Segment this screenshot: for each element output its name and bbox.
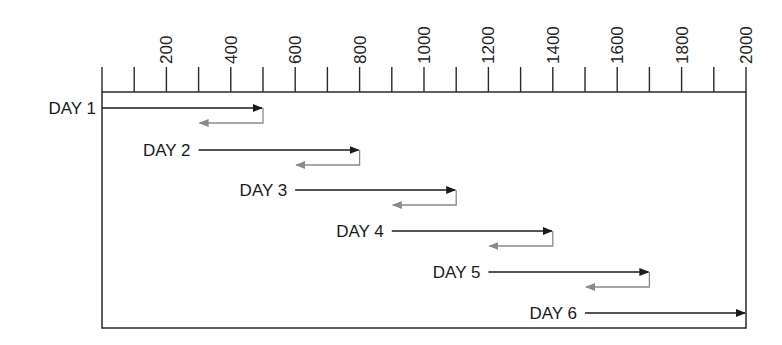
progress-timeline-diagram: 200400600800100012001400160018002000 DAY… (0, 0, 782, 345)
day-row-4: DAY 4 (336, 222, 553, 246)
return-arrow (200, 108, 263, 123)
day-row-6: DAY 6 (529, 304, 745, 323)
axis-tick-label: 400 (222, 36, 241, 64)
day-label: DAY 4 (336, 222, 384, 241)
day-label: DAY 6 (529, 304, 577, 323)
day-row-2: DAY 2 (143, 141, 360, 165)
day-label: DAY 5 (433, 263, 481, 282)
return-arrow (489, 231, 552, 246)
axis-tick-label: 800 (351, 36, 370, 64)
axis-tick-label: 1600 (608, 26, 627, 64)
return-arrow (296, 150, 359, 165)
axis-tick-label: 200 (157, 36, 176, 64)
axis-tick-label: 1400 (544, 26, 563, 64)
day-rows: DAY 1DAY 2DAY 3DAY 4DAY 5DAY 6 (48, 99, 745, 323)
chart-frame (102, 92, 746, 328)
day-label: DAY 1 (48, 99, 96, 118)
top-axis: 200400600800100012001400160018002000 (102, 26, 756, 92)
day-label: DAY 2 (143, 141, 191, 160)
day-row-1: DAY 1 (48, 99, 263, 123)
day-label: DAY 3 (240, 181, 288, 200)
day-row-3: DAY 3 (240, 181, 457, 205)
day-row-5: DAY 5 (433, 263, 650, 287)
axis-tick-label: 1000 (415, 26, 434, 64)
axis-tick-label: 1200 (479, 26, 498, 64)
axis-tick-label: 600 (286, 36, 305, 64)
axis-tick-label: 2000 (737, 26, 756, 64)
axis-tick-label: 1800 (673, 26, 692, 64)
return-arrow (586, 272, 649, 287)
return-arrow (393, 190, 456, 205)
